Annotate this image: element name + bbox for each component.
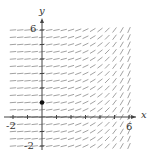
slope-field-diagram: y x 6 -2 -2 6 [0, 0, 148, 155]
y-axis-arrow-icon [40, 18, 44, 23]
x-axis-label: x [141, 110, 147, 120]
y-tick-label-neg2: -2 [24, 141, 34, 151]
slope-segments [10, 27, 131, 149]
x-tick-label-neg2: -2 [6, 121, 16, 131]
x-tick-label-6: 6 [126, 122, 132, 132]
axes [4, 20, 136, 150]
y-axis-label: y [39, 6, 45, 16]
x-axis-arrow-icon [131, 115, 136, 119]
y-tick-label-6: 6 [30, 24, 36, 34]
initial-point [40, 100, 45, 105]
